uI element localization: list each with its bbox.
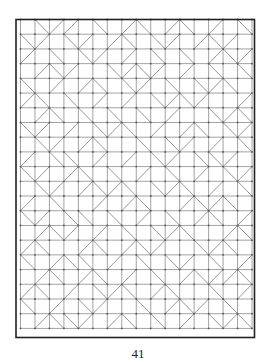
vertex-dot <box>179 33 181 35</box>
vertex-dot <box>251 122 253 124</box>
vertex-dot <box>121 77 123 79</box>
vertex-dot <box>135 298 137 300</box>
vertex-dot <box>251 328 253 330</box>
diagonal-line <box>238 122 252 137</box>
vertex-dot <box>20 122 22 124</box>
diagonal-line <box>180 64 194 79</box>
vertex-dot <box>49 180 51 182</box>
vertex-dot <box>92 298 94 300</box>
vertex-dot <box>77 313 79 315</box>
diagonal-line <box>223 152 237 167</box>
diagonal-line <box>165 93 179 108</box>
vertex-dot <box>92 254 94 256</box>
vertex-dot <box>106 269 108 271</box>
vertex-dot <box>106 92 108 94</box>
vertex-dot <box>222 63 224 65</box>
diagonal-line <box>209 196 223 211</box>
vertex-dot <box>106 239 108 241</box>
vertex-dot <box>251 180 253 182</box>
diagonal-line <box>122 152 136 167</box>
diagonal-line <box>122 78 136 93</box>
vertex-dot <box>135 328 137 330</box>
vertex-dot <box>121 298 123 300</box>
diagonal-line <box>180 122 194 137</box>
diagonal-line <box>93 284 107 299</box>
vertex-dot <box>20 298 22 300</box>
diagonal-line <box>136 240 150 255</box>
diagonal-line <box>194 196 208 211</box>
diagonal-line <box>209 78 223 93</box>
vertex-dot <box>135 180 137 182</box>
vertex-dot <box>49 77 51 79</box>
vertex-dot <box>106 313 108 315</box>
vertex-dot <box>251 239 253 241</box>
vertex-dot <box>251 63 253 65</box>
vertex-dot <box>106 283 108 285</box>
vertex-dot <box>63 136 65 138</box>
vertex-dot <box>208 283 210 285</box>
vertex-dot <box>63 92 65 94</box>
vertex-dot <box>121 283 123 285</box>
vertex-dot <box>63 269 65 271</box>
vertex-dot <box>193 166 195 168</box>
diagonal-line <box>209 314 223 329</box>
vertex-dot <box>237 254 239 256</box>
vertex-dot <box>49 107 51 109</box>
vertex-dot <box>193 180 195 182</box>
vertex-dot <box>77 166 79 168</box>
vertex-dot <box>193 298 195 300</box>
vertex-dot <box>92 313 94 315</box>
diagonal-line <box>209 137 223 152</box>
vertex-dot <box>34 92 36 94</box>
diagonal-line <box>194 34 208 49</box>
vertex-dot <box>106 195 108 197</box>
vertex-dot <box>193 77 195 79</box>
diagonal-line <box>238 49 252 64</box>
vertex-dot <box>193 283 195 285</box>
diagonal-line <box>180 20 194 35</box>
vertex-dot <box>92 239 94 241</box>
diagonal-line <box>35 167 49 182</box>
vertex-dot <box>20 225 22 227</box>
vertex-dot <box>77 48 79 50</box>
diagonal-line <box>107 211 121 226</box>
diagonal-line <box>35 64 49 79</box>
diagonal-line <box>93 137 107 152</box>
vertex-dot <box>121 63 123 65</box>
diagonal-line <box>107 255 121 270</box>
diagonal-line <box>93 196 107 211</box>
vertex-dot <box>150 122 152 124</box>
diagonal-line <box>165 225 179 240</box>
diagonal-line <box>93 122 107 137</box>
vertex-dot <box>193 48 195 50</box>
vertex-dot <box>34 136 36 138</box>
vertex-dot <box>135 225 137 227</box>
vertex-dot <box>193 210 195 212</box>
vertex-dot <box>222 48 224 50</box>
diagonal-line <box>209 49 223 64</box>
vertex-dot <box>164 92 166 94</box>
diagonal-line <box>136 255 150 270</box>
diagonal-line <box>165 20 179 35</box>
vertex-dot <box>251 313 253 315</box>
diagonal-line <box>49 255 63 270</box>
vertex-dot <box>208 77 210 79</box>
vertex-dot <box>34 195 36 197</box>
vertex-dot <box>49 269 51 271</box>
vertex-dot <box>106 77 108 79</box>
vertex-dot <box>106 254 108 256</box>
vertex-dot <box>208 151 210 153</box>
diagonal-line <box>122 314 136 329</box>
diagonal-line <box>238 270 252 285</box>
diagonal-line <box>35 137 49 152</box>
diagonal-line <box>180 93 194 108</box>
diagonal-line <box>209 211 223 226</box>
diagonal-line <box>78 167 92 182</box>
diagonal-line <box>64 167 78 182</box>
diagonal-line <box>223 240 237 255</box>
diagonal-line <box>194 270 208 285</box>
vertex-dot <box>77 225 79 227</box>
vertex-dot <box>135 269 137 271</box>
vertex-dot <box>92 77 94 79</box>
diagonal-line <box>223 270 237 285</box>
